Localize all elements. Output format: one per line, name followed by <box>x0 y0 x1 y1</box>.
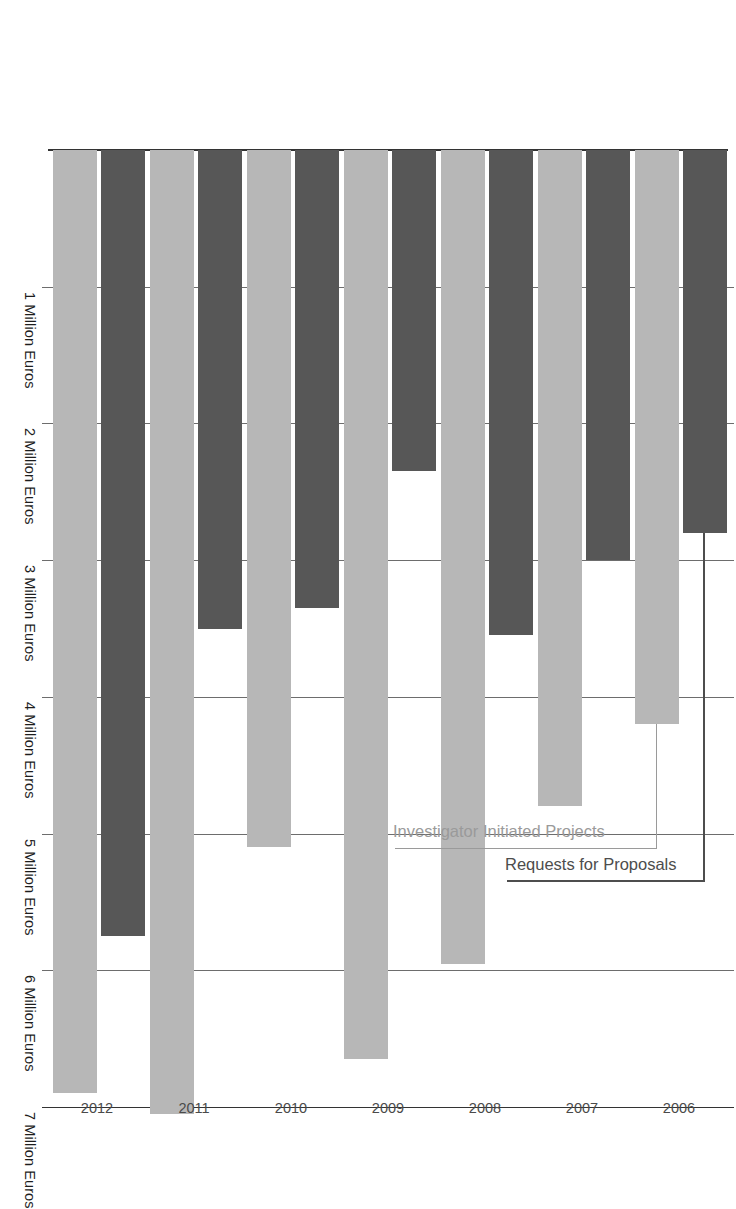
bar-light-2012 <box>53 150 97 1093</box>
category-label-2011: 2011 <box>178 1100 209 1116</box>
category-label-2012: 2012 <box>80 1100 112 1116</box>
category-label-2007: 2007 <box>566 1100 598 1116</box>
bar-dark-2009 <box>392 150 436 471</box>
value-tick-label: 7 Million Euros <box>22 1112 38 1209</box>
legend-label-investigator-initiated-projects: Investigator Initiated Projects <box>393 822 605 841</box>
value-tick-label: 5 Million Euros <box>22 839 38 936</box>
legend-leader-light-horizontal <box>656 724 657 848</box>
bar-light-2008 <box>441 150 485 964</box>
gridline-4m <box>42 697 734 698</box>
bar-dark-2006 <box>683 150 727 533</box>
bar-light-2007 <box>538 150 582 806</box>
category-label-2006: 2006 <box>663 1100 695 1116</box>
value-tick-label: 3 Million Euros <box>22 565 38 662</box>
value-tick-label: 6 Million Euros <box>22 975 38 1072</box>
value-tick-label: 2 Million Euros <box>22 428 38 525</box>
bar-dark-2012 <box>101 150 145 936</box>
legend-label-requests-for-proposals: Requests for Proposals <box>505 855 677 874</box>
legend-leader-light-vertical <box>395 848 657 849</box>
bar-dark-2011 <box>198 150 242 629</box>
gridline-6m <box>42 970 734 971</box>
category-label-2010: 2010 <box>275 1100 307 1116</box>
bar-light-2011 <box>150 150 194 1114</box>
bar-dark-2010 <box>295 150 339 608</box>
category-label-2009: 2009 <box>372 1100 404 1116</box>
bar-light-2010 <box>247 150 291 847</box>
category-label-2008: 2008 <box>469 1100 501 1116</box>
bar-light-2006 <box>635 150 679 724</box>
bar-dark-2007 <box>586 150 630 560</box>
bar-light-2009 <box>344 150 388 1059</box>
legend-leader-dark-vertical <box>507 880 705 882</box>
bar-dark-2008 <box>489 150 533 635</box>
value-tick-label: 4 Million Euros <box>22 702 38 799</box>
legend-leader-dark-horizontal <box>703 533 705 880</box>
gridline-5m <box>42 834 734 835</box>
value-tick-label: 1 Million Euros <box>22 292 38 389</box>
